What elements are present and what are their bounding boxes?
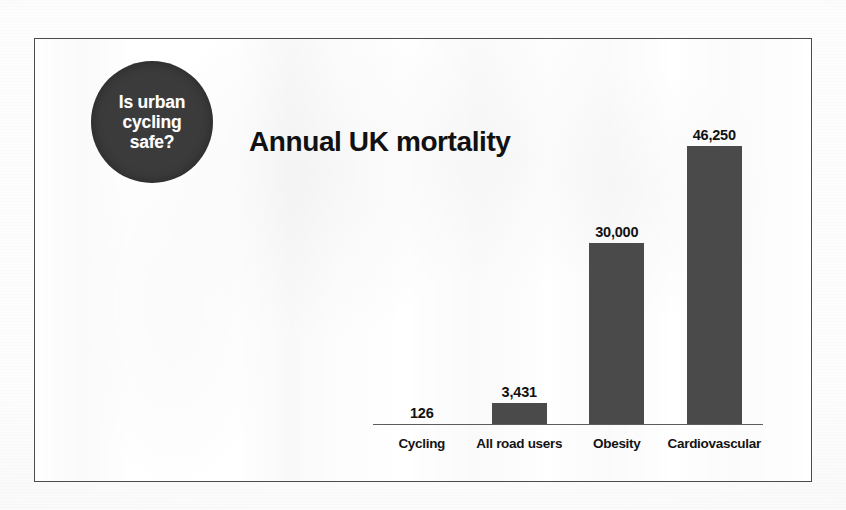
scanned-page: Is urban cycling safe? Annual UK mortali… [0, 0, 846, 510]
bar-rect [687, 146, 742, 424]
badge-line-3: safe? [119, 132, 185, 152]
bar-chart-plot-area: 126 3,431 30,000 46,250 Cycling [373, 95, 763, 425]
bar-rect [589, 243, 644, 423]
badge-line-2: cycling [119, 112, 185, 132]
bar-item: 126 [373, 96, 471, 424]
bar-item: 30,000 [568, 96, 666, 424]
bar-value-label: 30,000 [595, 224, 638, 240]
question-badge: Is urban cycling safe? [91, 61, 213, 183]
category-label: Obesity [568, 425, 666, 451]
bar-value-label: 126 [410, 405, 434, 421]
category-label: All road users [471, 425, 569, 451]
category-label: Cycling [373, 425, 471, 451]
question-badge-text: Is urban cycling safe? [119, 92, 185, 153]
bar-item: 3,431 [471, 96, 569, 424]
bar-value-label: 46,250 [693, 127, 736, 143]
bar-value-label: 3,431 [502, 384, 537, 400]
category-label: Cardiovascular [666, 425, 764, 451]
chart-frame: Is urban cycling safe? Annual UK mortali… [34, 38, 812, 482]
badge-line-1: Is urban [119, 92, 185, 112]
bar-item: 46,250 [666, 96, 764, 424]
bar-rect [492, 403, 547, 424]
category-axis-labels: Cycling All road users Obesity Cardiovas… [373, 425, 763, 451]
bar-group: 126 3,431 30,000 46,250 [373, 96, 763, 424]
